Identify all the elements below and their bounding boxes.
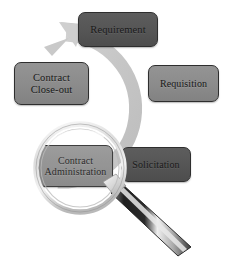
node-contract-close-out-label: Contract Close-out — [29, 72, 75, 96]
node-contract-close-out-label-line1: Contract — [33, 72, 70, 83]
node-contract-administration-label-line2: Administration — [45, 166, 107, 177]
node-contract-close-out-label-line2: Close-out — [31, 84, 73, 95]
node-contract-administration[interactable]: Contract Administration — [38, 145, 113, 187]
node-solicitation[interactable]: Solicitation — [121, 147, 191, 182]
node-requirement[interactable]: Requirement — [78, 12, 158, 47]
node-requisition-label: Requisition — [158, 78, 209, 89]
node-requisition[interactable]: Requisition — [148, 65, 219, 102]
node-requirement-label: Requirement — [88, 24, 147, 36]
process-cycle-diagram: Requirement Requisition Solicitation Con… — [0, 0, 234, 262]
node-contract-administration-label: Contract Administration — [43, 155, 109, 177]
node-contract-close-out[interactable]: Contract Close-out — [14, 62, 89, 105]
node-solicitation-label: Solicitation — [130, 159, 181, 170]
node-contract-administration-label-line1: Contract — [58, 155, 93, 166]
